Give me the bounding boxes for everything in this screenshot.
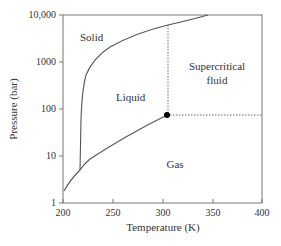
x-tick-label-250: 250 <box>106 207 121 218</box>
region-label-supercritical-line1: Supercritical <box>189 60 245 72</box>
x-axis <box>63 199 262 203</box>
y-axis <box>59 15 63 203</box>
x-tick-label-200: 200 <box>56 207 71 218</box>
region-label-gas: Gas <box>166 158 183 170</box>
region-label-liquid: Liquid <box>116 91 146 103</box>
x-tick-label-300: 300 <box>156 207 171 218</box>
x-tick-label-400: 400 <box>255 207 270 218</box>
critical-point-marker <box>164 112 170 118</box>
x-axis-label: Temperature (K) <box>126 221 200 234</box>
x-tick-label-350: 350 <box>206 207 221 218</box>
y-tick-label-10000: 10,000 <box>29 9 57 20</box>
y-tick-label-1000: 1000 <box>36 56 56 67</box>
sublimation-vaporization-curve <box>64 115 167 191</box>
y-tick-label-100: 100 <box>41 103 56 114</box>
phase-diagram-chart: 10,000 1000 100 10 1 200 250 300 350 400… <box>0 0 281 246</box>
y-axis-label: Pressure (bar) <box>7 78 20 140</box>
plot-frame <box>63 15 262 203</box>
region-label-solid: Solid <box>80 31 104 43</box>
y-tick-label-10: 10 <box>46 150 56 161</box>
region-label-supercritical-line2: fluid <box>207 74 228 86</box>
